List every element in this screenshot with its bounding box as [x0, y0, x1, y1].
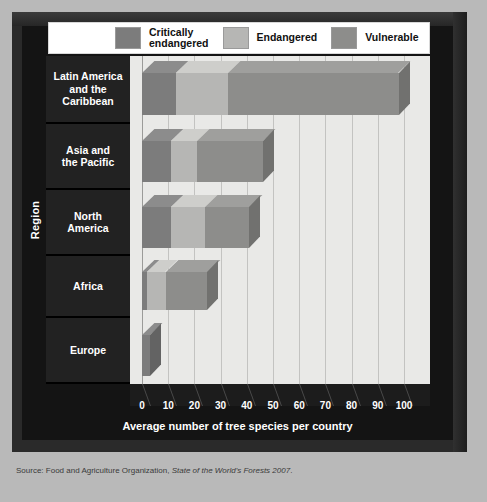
source-suffix: .	[290, 466, 292, 475]
bar-segment-side	[207, 261, 218, 310]
bar-segment	[197, 141, 263, 182]
bar-segment	[142, 141, 171, 182]
bar-segment-front	[176, 73, 228, 115]
legend-label-endangered: Endangered	[257, 32, 318, 44]
x-tick-label-40: 40	[241, 400, 252, 411]
bar-segment-front	[147, 272, 165, 310]
bar-segment-top	[228, 61, 411, 73]
bar-segment-front	[205, 207, 250, 248]
legend-item-critically_endangered: Critically endangered	[115, 27, 209, 50]
x-axis-ticks: 0102030405060708090100	[130, 400, 440, 416]
bar-segment	[142, 207, 171, 248]
x-tick-label-20: 20	[189, 400, 200, 411]
bar-segment	[166, 272, 208, 310]
region-label-2: North America	[46, 190, 130, 256]
bar-segment-side	[150, 324, 161, 376]
x-tick-label-30: 30	[215, 400, 226, 411]
bar-segment-front	[166, 272, 208, 310]
chart-page: Region Latin America and the CaribbeanAs…	[0, 0, 487, 502]
bar-segment	[171, 141, 197, 182]
bar-segment-front	[228, 73, 398, 115]
bar-segment-front	[171, 207, 205, 248]
y-axis-title: Region	[24, 150, 46, 290]
bar-segment-front	[197, 141, 263, 182]
x-tick-label-0: 0	[139, 400, 145, 411]
legend-item-endangered: Endangered	[223, 27, 318, 49]
bar-segment	[142, 73, 176, 115]
x-tick-label-10: 10	[163, 400, 174, 411]
chart-frame-right-edge	[453, 12, 467, 452]
legend-label-critically_endangered: Critically endangered	[149, 27, 209, 50]
bar-segment-side	[249, 196, 260, 248]
legend-swatch-endangered	[223, 27, 249, 49]
region-label-4: Europe	[46, 318, 130, 384]
bar-segment-front	[171, 141, 197, 182]
region-label-0: Latin America and the Caribbean	[46, 56, 130, 124]
legend-swatch-vulnerable	[331, 27, 357, 49]
x-tick-label-50: 50	[267, 400, 278, 411]
region-label-1: Asia and the Pacific	[46, 124, 130, 190]
legend-item-vulnerable: Vulnerable	[331, 27, 418, 49]
bar-segment-side	[399, 62, 410, 115]
chart-legend: Critically endangeredEndangeredVulnerabl…	[48, 22, 430, 54]
bar-segment	[228, 73, 398, 115]
legend-swatch-critically_endangered	[115, 27, 141, 49]
bar-segment-front	[142, 73, 176, 115]
x-axis-title: Average number of tree species per count…	[22, 420, 453, 432]
x-tick-label-100: 100	[396, 400, 413, 411]
bar-segment	[171, 207, 205, 248]
x-tick-label-90: 90	[372, 400, 383, 411]
source-title: State of the World's Forests 2007	[172, 466, 290, 475]
y-axis-title-label: Region	[29, 201, 41, 239]
bar-segment	[205, 207, 250, 248]
bar-segment-front	[142, 335, 150, 376]
source-prefix: Source: Food and Agriculture Organizatio…	[16, 466, 172, 475]
bar-segment-front	[142, 141, 171, 182]
bar-segment	[176, 73, 228, 115]
x-tick-label-70: 70	[320, 400, 331, 411]
x-tick-label-80: 80	[346, 400, 357, 411]
bar-segment	[147, 272, 165, 310]
plot-area	[130, 56, 430, 384]
bar-segment	[142, 335, 150, 376]
region-label-column: Latin America and the CaribbeanAsia and …	[46, 56, 130, 384]
x-tick-label-60: 60	[294, 400, 305, 411]
bar-segment-front	[142, 207, 171, 248]
legend-label-vulnerable: Vulnerable	[365, 32, 418, 44]
source-note: Source: Food and Agriculture Organizatio…	[16, 466, 456, 476]
region-label-3: Africa	[46, 256, 130, 318]
